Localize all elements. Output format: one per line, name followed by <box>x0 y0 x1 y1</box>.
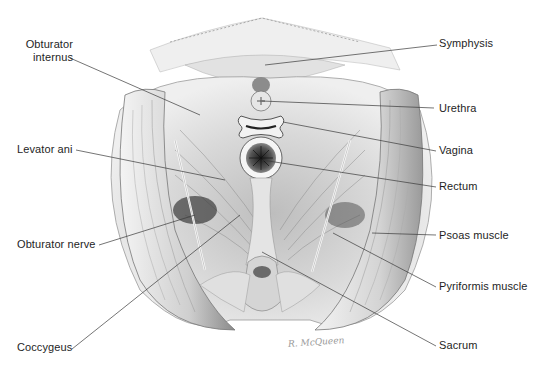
label-levator-ani: Levator ani <box>17 143 73 156</box>
label-obturator-internus: Obturator internus <box>15 38 73 64</box>
label-rectum: Rectum <box>439 180 478 193</box>
label-obturator-internus-line2: internus <box>15 51 73 64</box>
label-coccygeus: Coccygeus <box>17 341 72 354</box>
label-obturator-nerve: Obturator nerve <box>17 238 96 251</box>
label-sacrum: Sacrum <box>439 339 478 352</box>
rectum <box>240 137 282 179</box>
label-psoas-muscle: Psoas muscle <box>439 229 509 242</box>
label-urethra: Urethra <box>439 102 476 115</box>
label-pyriformis-muscle: Pyriformis muscle <box>439 280 528 293</box>
anatomy-figure: Obturator internus Levator ani Obturator… <box>0 0 547 365</box>
bladder-neck <box>252 77 270 93</box>
label-obturator-internus-line1: Obturator <box>15 38 73 51</box>
label-symphysis: Symphysis <box>439 37 493 50</box>
label-vagina: Vagina <box>439 144 473 157</box>
symphysis-region <box>150 18 400 85</box>
